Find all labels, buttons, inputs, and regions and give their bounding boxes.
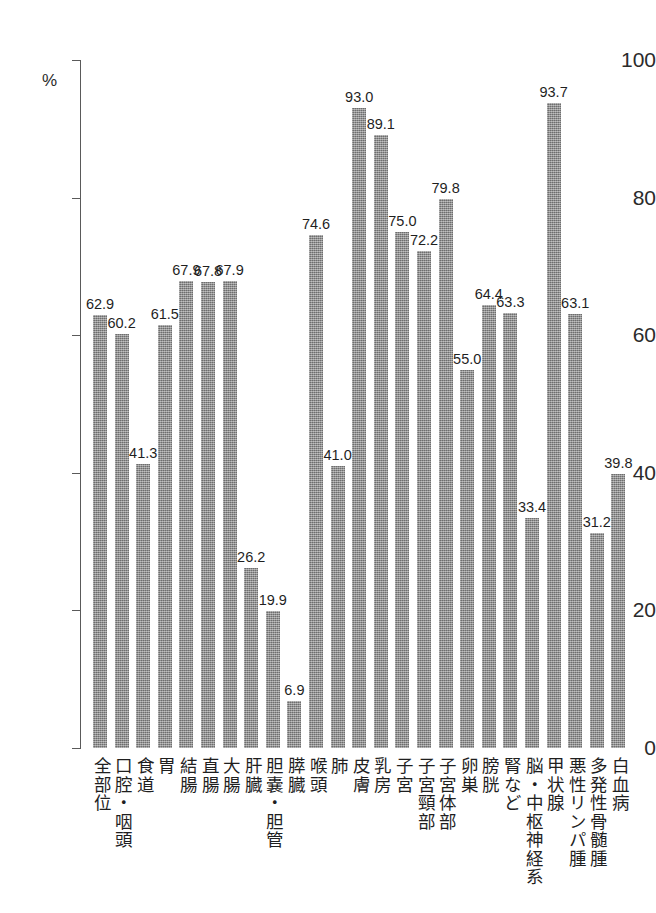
bar-column: 72.2	[417, 251, 431, 748]
bar-value-label: 33.4	[518, 500, 546, 515]
bar	[352, 108, 366, 748]
x-axis-label: 皮膚	[351, 757, 369, 794]
bar	[590, 533, 604, 748]
x-axis-label: 乳房	[373, 757, 391, 794]
bar-column: 19.9	[266, 611, 280, 748]
bar-value-label: 19.9	[259, 593, 287, 608]
bar-column: 89.1	[374, 135, 388, 748]
bar	[93, 315, 107, 748]
y-axis-tick	[72, 198, 81, 199]
bar-column: 75.0	[395, 232, 409, 748]
x-axis-label: 直腸	[200, 757, 218, 794]
bar-column: 26.2	[244, 568, 258, 748]
bar	[223, 281, 237, 748]
x-axis-label: 腎など	[502, 757, 520, 813]
bar	[417, 251, 431, 748]
bar	[244, 568, 258, 748]
bar-value-label: 67.9	[215, 263, 243, 278]
y-axis-tick	[72, 748, 81, 749]
x-axis-label: 子宮体部	[438, 757, 456, 831]
bar-value-label: 39.8	[604, 456, 632, 471]
bar-value-label: 61.5	[151, 307, 179, 322]
x-axis-label: 多発性骨髄腫	[589, 757, 607, 868]
bar-column: 74.6	[309, 235, 323, 748]
bar	[503, 313, 517, 749]
bar-value-label: 63.1	[561, 296, 589, 311]
bar-value-label: 72.2	[410, 233, 438, 248]
bar-column: 31.2	[590, 533, 604, 748]
bar-chart: % 020406080100 62.960.241.361.567.967.86…	[0, 0, 656, 913]
y-axis-tick	[72, 335, 81, 336]
x-axis-label: 食道	[135, 757, 153, 794]
bar-value-label: 62.9	[86, 297, 114, 312]
bar-value-label: 41.3	[129, 446, 157, 461]
bar-column: 63.1	[568, 314, 582, 748]
x-axis-label: 胆嚢・胆管	[265, 757, 283, 850]
plot-area: % 020406080100 62.960.241.361.567.967.86…	[0, 0, 656, 913]
bar-column: 67.9	[223, 281, 237, 748]
x-axis-label: 口腔・咽頭	[114, 757, 132, 850]
y-axis-unit-label: %	[42, 72, 57, 89]
bar-column: 33.4	[525, 518, 539, 748]
bar	[611, 474, 625, 748]
x-axis-label: 肺	[330, 757, 348, 776]
bar-value-label: 74.6	[302, 217, 330, 232]
y-axis-tick	[72, 60, 81, 61]
bar	[266, 611, 280, 748]
bar-value-label: 75.0	[388, 214, 416, 229]
x-axis-label: 悪性リンパ腫	[567, 757, 585, 868]
bar	[136, 464, 150, 748]
bar	[309, 235, 323, 748]
x-axis-label: 膵臓	[286, 757, 304, 794]
x-axis-label: 子宮頸部	[416, 757, 434, 831]
bar-column: 79.8	[439, 199, 453, 748]
bar-column: 55.0	[460, 370, 474, 748]
x-axis-label: 卵巣	[459, 757, 477, 794]
y-axis-tick	[72, 473, 81, 474]
bar-column: 60.2	[115, 334, 129, 748]
bar	[287, 701, 301, 748]
x-axis-label: 脳・中枢神経系	[524, 757, 542, 887]
bar	[439, 199, 453, 748]
bar	[374, 135, 388, 748]
bar	[201, 282, 215, 748]
bar	[525, 518, 539, 748]
bar-column: 6.9	[287, 701, 301, 748]
bar-value-label: 31.2	[583, 515, 611, 530]
bar	[482, 305, 496, 748]
bar-value-label: 79.8	[431, 181, 459, 196]
bar-column: 63.3	[503, 313, 517, 749]
bar	[395, 232, 409, 748]
y-axis-tick-label: 60	[592, 324, 656, 345]
bar-value-label: 41.0	[323, 448, 351, 463]
x-axis-label: 喉頭	[308, 757, 326, 794]
bar-value-label: 26.2	[237, 550, 265, 565]
x-axis-label: 胃	[157, 757, 175, 776]
bar	[331, 466, 345, 748]
bar	[179, 281, 193, 748]
x-axis-label: 甲状腺	[546, 757, 564, 813]
x-axis-label: 白血病	[610, 757, 628, 813]
bar-column: 67.9	[179, 281, 193, 748]
bar-value-label: 60.2	[107, 316, 135, 331]
bar	[568, 314, 582, 748]
bar-column: 62.9	[93, 315, 107, 748]
y-axis-tick	[72, 610, 81, 611]
bar-column: 93.7	[547, 103, 561, 748]
bar-value-label: 93.0	[345, 90, 373, 105]
bar-value-label: 93.7	[539, 85, 567, 100]
bar-column: 67.8	[201, 282, 215, 748]
bar	[115, 334, 129, 748]
x-axis-label: 大腸	[222, 757, 240, 794]
bar	[158, 325, 172, 748]
bar-column: 41.0	[331, 466, 345, 748]
bar-column: 39.8	[611, 474, 625, 748]
x-axis-label: 子宮	[394, 757, 412, 794]
x-axis-label: 全部位	[92, 757, 110, 813]
bar-value-label: 63.3	[496, 295, 524, 310]
bar	[547, 103, 561, 748]
bar-value-label: 89.1	[367, 117, 395, 132]
x-axis-label: 膀胱	[481, 757, 499, 794]
y-axis-tick-label: 100	[592, 49, 656, 70]
bar-value-label: 6.9	[284, 683, 304, 698]
